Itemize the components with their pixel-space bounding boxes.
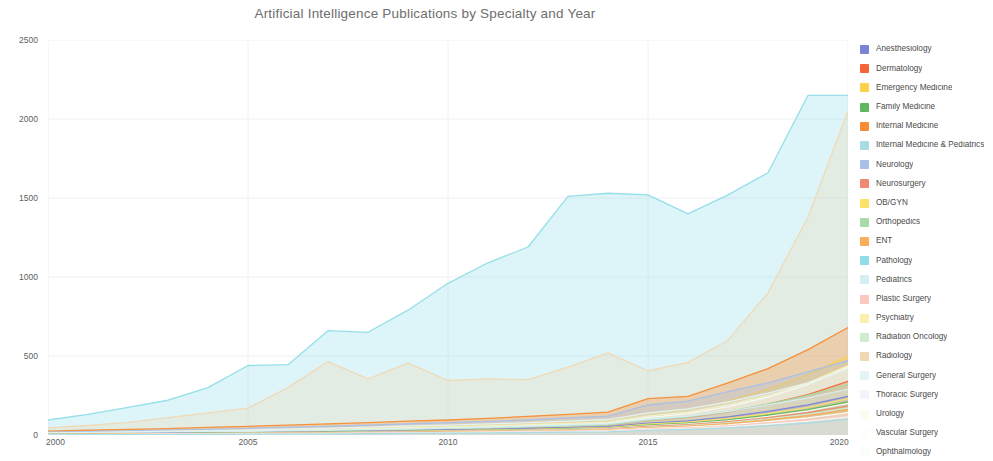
- legend-item[interactable]: Anesthesiology: [860, 40, 993, 59]
- legend-item[interactable]: Dermatology: [860, 59, 993, 78]
- legend-label: Neurology: [876, 161, 913, 169]
- legend-swatch-icon: [860, 64, 869, 73]
- legend-item[interactable]: Urology: [860, 405, 993, 424]
- legend-label: Thoracic Surgery: [876, 391, 938, 399]
- legend-swatch-icon: [860, 256, 869, 265]
- legend-swatch-icon: [860, 83, 869, 92]
- y-tick-label: 2500: [19, 35, 38, 45]
- legend-item[interactable]: Pediatrics: [860, 270, 993, 289]
- legend-label: Ophthalmology: [876, 448, 931, 456]
- legend-swatch-icon: [860, 410, 869, 419]
- legend-item[interactable]: Internal Medicine & Pediatrics: [860, 136, 993, 155]
- y-axis: 05001000150020002500: [0, 40, 44, 435]
- legend-item[interactable]: Radiology: [860, 347, 993, 366]
- legend-label: General Surgery: [876, 372, 936, 380]
- legend-label: ENT: [876, 237, 892, 245]
- legend-item[interactable]: Plastic Surgery: [860, 289, 993, 308]
- x-tick-label: 2020: [830, 437, 849, 447]
- legend-item[interactable]: Neurology: [860, 155, 993, 174]
- legend-swatch-icon: [860, 352, 869, 361]
- legend-swatch-icon: [860, 448, 869, 457]
- legend-swatch-icon: [860, 237, 869, 246]
- chart-title: Artificial Intelligence Publications by …: [0, 6, 850, 21]
- legend-swatch-icon: [860, 429, 869, 438]
- x-tick-label: 2000: [46, 437, 65, 447]
- legend-swatch-icon: [860, 103, 869, 112]
- legend-item[interactable]: Ophthalmology: [860, 443, 993, 461]
- y-tick-label: 0: [33, 430, 38, 440]
- legend-item[interactable]: Radiation Oncology: [860, 328, 993, 347]
- legend-item[interactable]: Pathology: [860, 251, 993, 270]
- legend-label: Pathology: [876, 257, 912, 265]
- legend-item[interactable]: Internal Medicine: [860, 117, 993, 136]
- legend-swatch-icon: [860, 295, 869, 304]
- y-tick-label: 1000: [19, 272, 38, 282]
- legend: AnesthesiologyDermatologyEmergency Medic…: [860, 40, 993, 448]
- legend-label: Vascular Surgery: [876, 429, 938, 437]
- x-axis: 20002005201020152020: [48, 437, 848, 451]
- legend-label: Neurosurgery: [876, 180, 926, 188]
- legend-label: OB/GYN: [876, 199, 908, 207]
- legend-label: Radiology: [876, 352, 912, 360]
- legend-label: Anesthesiology: [876, 45, 932, 53]
- legend-label: Orthopedics: [876, 218, 920, 226]
- legend-swatch-icon: [860, 199, 869, 208]
- x-tick-label: 2005: [239, 437, 258, 447]
- y-tick-label: 500: [24, 351, 38, 361]
- legend-swatch-icon: [860, 275, 869, 284]
- legend-label: Dermatology: [876, 65, 922, 73]
- legend-swatch-icon: [860, 390, 869, 399]
- legend-swatch-icon: [860, 160, 869, 169]
- legend-swatch-icon: [860, 122, 869, 131]
- legend-label: Emergency Medicine: [876, 84, 952, 92]
- legend-item[interactable]: Family Medicine: [860, 98, 993, 117]
- y-tick-label: 1500: [19, 193, 38, 203]
- legend-swatch-icon: [860, 371, 869, 380]
- legend-item[interactable]: Neurosurgery: [860, 174, 993, 193]
- legend-label: Plastic Surgery: [876, 295, 931, 303]
- legend-swatch-icon: [860, 141, 869, 150]
- legend-swatch-icon: [860, 314, 869, 323]
- area-chart-svg: [48, 40, 848, 435]
- legend-item[interactable]: Psychiatry: [860, 309, 993, 328]
- legend-item[interactable]: Emergency Medicine: [860, 78, 993, 97]
- legend-item[interactable]: ENT: [860, 232, 993, 251]
- legend-item[interactable]: Vascular Surgery: [860, 424, 993, 443]
- legend-swatch-icon: [860, 45, 869, 54]
- x-tick-label: 2015: [639, 437, 658, 447]
- y-tick-label: 2000: [19, 114, 38, 124]
- legend-item[interactable]: Thoracic Surgery: [860, 385, 993, 404]
- x-tick-label: 2010: [439, 437, 458, 447]
- legend-label: Psychiatry: [876, 314, 914, 322]
- plot-area: [48, 40, 848, 435]
- legend-swatch-icon: [860, 333, 869, 342]
- legend-label: Internal Medicine & Pediatrics: [876, 141, 984, 149]
- legend-swatch-icon: [860, 218, 869, 227]
- legend-label: Pediatrics: [876, 276, 912, 284]
- legend-label: Internal Medicine: [876, 122, 938, 130]
- legend-item[interactable]: Orthopedics: [860, 213, 993, 232]
- legend-label: Radiation Oncology: [876, 333, 947, 341]
- legend-item[interactable]: General Surgery: [860, 366, 993, 385]
- legend-label: Urology: [876, 410, 904, 418]
- legend-item[interactable]: OB/GYN: [860, 194, 993, 213]
- legend-label: Family Medicine: [876, 103, 935, 111]
- legend-swatch-icon: [860, 179, 869, 188]
